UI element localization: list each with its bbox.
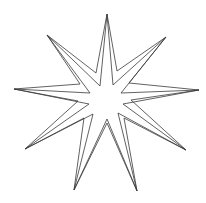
background — [0, 0, 206, 203]
star-diagram — [0, 0, 206, 203]
